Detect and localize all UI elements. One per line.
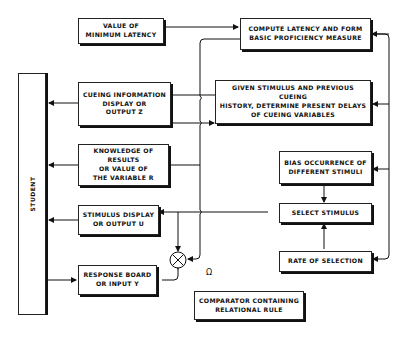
given-stimulus-box: GIVEN STIMULUS AND PREVIOUS CUEING HISTO… [215,80,371,124]
knowledge-results-box: KNOWLEDGE OF RESULTS OR VALUE OF THE VAR… [78,144,169,186]
omega-label: Ω [206,268,212,277]
compute-latency-box: COMPUTE LATENCY AND FORM BASIC PROFICIEN… [240,18,371,50]
min-latency-box: VALUE OF MINIMUM LATENCY [78,18,164,44]
comparator-box: COMPARATOR CONTAINING RELATIONAL RULE [194,291,304,320]
rate-selection-box: RATE OF SELECTION [279,251,372,272]
stimulus-display-box: STIMULUS DISPLAY OR OUTPUT U [78,205,159,235]
comparator-symbol [170,252,186,268]
bias-occurrence-box: BIAS OCCURRENCE OF DIFFERENT STIMULI [279,151,372,184]
select-stimulus-box: SELECT STIMULUS [279,203,372,223]
cueing-display-box: CUEING INFORMATION DISPLAY OR OUTPUT Z [78,82,171,126]
response-board-box: RESPONSE BOARD OR INPUT Y [78,265,157,295]
